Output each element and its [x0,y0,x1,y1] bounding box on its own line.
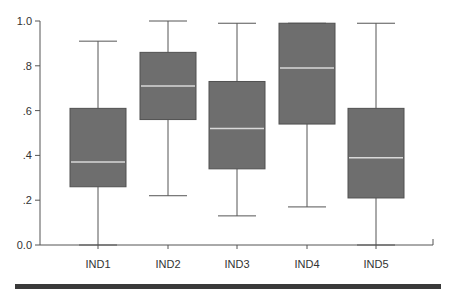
box-ind1 [70,41,126,245]
y-tick-label: .6 [23,105,32,117]
x-axis: IND1IND2IND3IND4IND5 [40,239,433,270]
x-category-label: IND4 [294,258,319,270]
box-ind5 [348,23,404,245]
box-ind3 [209,23,265,216]
box-ind4 [279,23,335,207]
x-category-label: IND5 [363,258,388,270]
y-tick-label: .2 [23,194,32,206]
y-tick-label: 1.0 [17,15,32,27]
y-axis: 0.0.2.4.6.81.0 [17,15,40,251]
box-series [70,21,404,245]
iqr-box [209,81,265,168]
x-category-label: IND1 [85,258,110,270]
box-plot-chart: 0.0.2.4.6.81.0 IND1IND2IND3IND4IND5 [0,0,449,293]
x-category-label: IND2 [155,258,180,270]
iqr-box [348,108,404,198]
y-tick-label: 0.0 [17,239,32,251]
iqr-box [70,108,126,186]
x-category-label: IND3 [224,258,249,270]
bottom-divider-bar [15,284,441,289]
y-tick-label: .4 [23,149,32,161]
box-ind2 [140,21,196,196]
y-tick-label: .8 [23,60,32,72]
iqr-box [279,23,335,124]
